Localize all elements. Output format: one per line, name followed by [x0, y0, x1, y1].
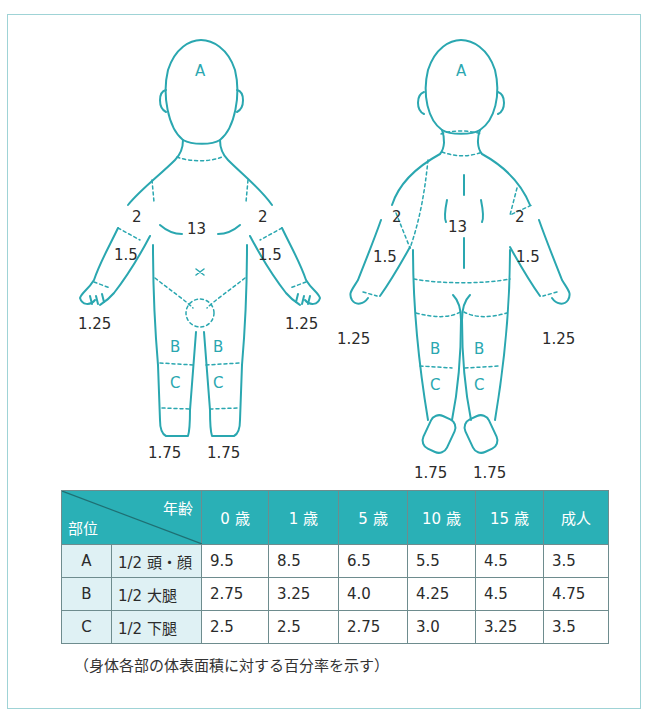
- value-cell: 8.5: [269, 545, 339, 578]
- value-cell: 4.25: [408, 578, 476, 611]
- table-row: B 1/2 大腿 2.75 3.25 4.0 4.25 4.5 4.75: [62, 578, 609, 611]
- value-cell: 4.75: [544, 578, 609, 611]
- back-trunk-percent: 13: [448, 220, 467, 235]
- back-leg-right-region-label: C: [474, 378, 484, 393]
- back-head-region-label: A: [456, 64, 466, 79]
- age-header-adult: 成人: [544, 491, 609, 545]
- front-body-outline: [80, 40, 320, 436]
- lund-browder-table: 年齢 部位 0 歳 1 歳 5 歳 10 歳 15 歳 成人 A 1/2 頭・顔…: [61, 490, 609, 644]
- value-cell: 5.5: [408, 545, 476, 578]
- back-thigh-right-region-label: B: [474, 342, 484, 357]
- back-upper-arm-right-percent: 2: [515, 210, 525, 225]
- region-code: B: [62, 578, 112, 611]
- value-cell: 3.25: [476, 611, 544, 644]
- back-hand-right-percent: 1.25: [542, 332, 575, 347]
- region-part: 1/2 頭・顔: [112, 545, 202, 578]
- front-leg-right-region-label: C: [213, 376, 223, 391]
- value-cell: 4.5: [476, 545, 544, 578]
- value-cell: 3.25: [269, 578, 339, 611]
- front-upper-arm-left-percent: 2: [132, 210, 142, 225]
- value-cell: 2.5: [269, 611, 339, 644]
- back-hand-left-percent: 1.25: [337, 332, 370, 347]
- front-thigh-right-region-label: B: [213, 340, 223, 355]
- region-code: C: [62, 611, 112, 644]
- back-leg-left-region-label: C: [430, 378, 440, 393]
- front-trunk-percent: 13: [187, 222, 206, 237]
- value-cell: 3.5: [544, 611, 609, 644]
- back-forearm-left-percent: 1.5: [373, 250, 397, 265]
- value-cell: 9.5: [202, 545, 269, 578]
- front-foot-right-percent: 1.75: [207, 446, 240, 461]
- front-forearm-left-percent: 1.5: [114, 248, 138, 263]
- region-code: A: [62, 545, 112, 578]
- value-cell: 6.5: [339, 545, 408, 578]
- table-row: A 1/2 頭・顔 9.5 8.5 6.5 5.5 4.5 3.5: [62, 545, 609, 578]
- value-cell: 3.0: [408, 611, 476, 644]
- back-upper-arm-left-percent: 2: [392, 210, 402, 225]
- age-header-label: 年齢: [163, 497, 193, 518]
- front-hand-left-percent: 1.25: [78, 317, 111, 332]
- back-forearm-right-percent: 1.5: [516, 250, 540, 265]
- region-part: 1/2 大腿: [112, 578, 202, 611]
- front-region-dividers: [94, 157, 306, 409]
- front-foot-left-percent: 1.75: [148, 446, 181, 461]
- age-header-0: 0 歳: [202, 491, 269, 545]
- body-diagrams: [0, 0, 657, 490]
- front-leg-left-region-label: C: [170, 376, 180, 391]
- back-foot-right-percent: 1.75: [473, 466, 506, 481]
- table-row: C 1/2 下腿 2.5 2.5 2.75 3.0 3.25 3.5: [62, 611, 609, 644]
- value-cell: 2.75: [202, 578, 269, 611]
- age-header-10: 10 歳: [408, 491, 476, 545]
- age-header-15: 15 歳: [476, 491, 544, 545]
- region-part: 1/2 下腿: [112, 611, 202, 644]
- front-forearm-right-percent: 1.5: [258, 248, 282, 263]
- front-upper-arm-right-percent: 2: [258, 210, 268, 225]
- front-head-region-label: A: [195, 64, 205, 79]
- back-foot-left-percent: 1.75: [414, 466, 447, 481]
- front-hand-right-percent: 1.25: [285, 317, 318, 332]
- value-cell: 3.5: [544, 545, 609, 578]
- value-cell: 4.5: [476, 578, 544, 611]
- value-cell: 2.5: [202, 611, 269, 644]
- front-thigh-left-region-label: B: [170, 340, 180, 355]
- footnote: （身体各部の体表面積に対する百分率を示す）: [74, 654, 389, 675]
- table-header-row: 年齢 部位 0 歳 1 歳 5 歳 10 歳 15 歳 成人: [62, 491, 609, 545]
- value-cell: 2.75: [339, 611, 408, 644]
- navel-mark: [196, 269, 204, 275]
- part-header-label: 部位: [68, 517, 98, 538]
- age-header-1: 1 歳: [269, 491, 339, 545]
- back-thigh-left-region-label: B: [430, 342, 440, 357]
- corner-header-cell: 年齢 部位: [62, 491, 202, 545]
- value-cell: 4.0: [339, 578, 408, 611]
- age-header-5: 5 歳: [339, 491, 408, 545]
